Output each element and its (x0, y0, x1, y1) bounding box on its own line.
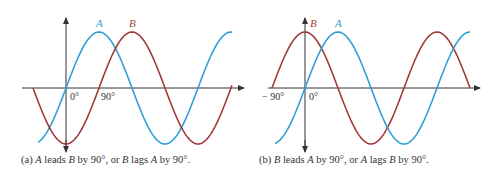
caption-text: lags (128, 154, 150, 165)
caption-text: (a) (21, 154, 35, 165)
caption-text: leads (280, 154, 307, 165)
caption-text: by 90°, or (75, 154, 122, 165)
curve-label-b: B (129, 17, 136, 29)
curve-label-b: B (310, 17, 317, 29)
curve-label-a: A (334, 17, 342, 29)
caption-text: by 90°. (396, 154, 429, 165)
caption-text: by 90°, or (314, 154, 361, 165)
panel-a: A B 0° 90° (22, 17, 244, 152)
caption-text: leads (42, 154, 69, 165)
tick-label-90: 90° (101, 91, 115, 102)
caption-text: (b) (259, 154, 274, 165)
caption-b: (b) B leads A by 90°, or A lags B by 90°… (259, 154, 429, 165)
caption-a: (a) A leads B by 90°, or B lags A by 90°… (21, 154, 190, 165)
curve-label-a: A (95, 17, 103, 29)
tick-label-0: 0° (309, 91, 318, 102)
caption-text: lags (367, 154, 389, 165)
phase-diagram: A B 0° 90° B A − 90° 0° (0, 0, 496, 178)
tick-label-neg90: − 90° (262, 91, 284, 102)
tick-label-0: 0° (70, 91, 79, 102)
panel-b: B A − 90° 0° (262, 17, 480, 152)
caption-text: by 90°. (157, 154, 190, 165)
